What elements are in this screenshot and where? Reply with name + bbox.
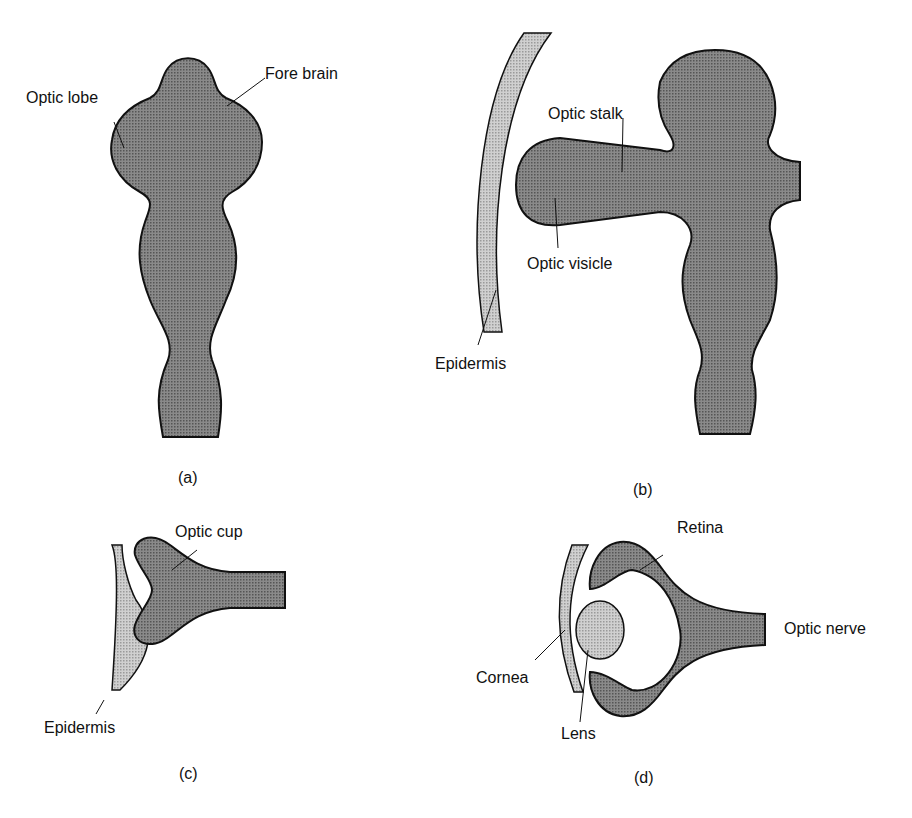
caption-c: (c): [179, 766, 198, 782]
caption-a: (a): [178, 470, 198, 486]
caption-b: (b): [633, 482, 653, 498]
label-fore-brain: Fore brain: [265, 66, 338, 82]
label-optic-lobe: Optic lobe: [26, 90, 98, 106]
label-optic-stalk: Optic stalk: [548, 106, 623, 122]
label-optic-nerve: Optic nerve: [784, 621, 866, 637]
label-epidermis-b: Epidermis: [435, 356, 506, 372]
label-retina: Retina: [677, 520, 723, 536]
label-cornea: Cornea: [476, 670, 528, 686]
panel-b-diagram: [477, 33, 800, 434]
panel-c-diagram: [96, 538, 285, 714]
panel-d-diagram: [535, 542, 765, 722]
panel-a-brain: [111, 58, 265, 437]
caption-d: (d): [634, 770, 654, 786]
label-epidermis-c: Epidermis: [44, 720, 115, 736]
label-optic-cup: Optic cup: [175, 524, 243, 540]
label-lens: Lens: [561, 726, 596, 742]
diagram-canvas: [0, 0, 912, 818]
label-optic-visicle: Optic visicle: [527, 256, 612, 272]
